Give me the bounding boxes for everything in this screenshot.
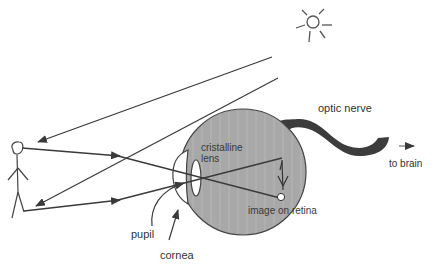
optic-nerve-label: optic nerve [318, 103, 372, 114]
image-on-retina-label: image on retina [248, 205, 317, 216]
lens-label: lens [201, 153, 219, 164]
person-figure [8, 142, 28, 218]
image-point-dot [277, 193, 284, 200]
lens-shape [191, 160, 201, 196]
cornea-label: cornea [160, 250, 194, 261]
to-brain-label: to brain [389, 158, 422, 169]
sun-icon [296, 9, 332, 42]
cornea-pointer-arrow [169, 210, 178, 240]
pupil-label: pupil [131, 229, 154, 240]
cristalline-label: cristalline [201, 142, 243, 153]
cornea-shape [173, 150, 188, 204]
diagram-canvas [0, 0, 433, 267]
eye-diagram: optic nerve to brain cristalline lens im… [0, 0, 433, 267]
